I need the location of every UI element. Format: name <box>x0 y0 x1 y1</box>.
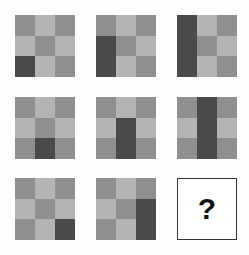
tile-cell <box>116 118 136 139</box>
tile-cell <box>197 15 217 36</box>
tile-cell <box>35 15 55 36</box>
tile-cell <box>15 15 35 36</box>
tile-cell <box>96 97 116 118</box>
tile-cell <box>197 36 217 57</box>
tile-cell <box>35 36 55 57</box>
tile-cell <box>96 138 116 159</box>
tile-cell <box>55 118 75 139</box>
tile-cell <box>15 219 35 240</box>
tile-cell <box>116 15 136 36</box>
tile-cell <box>35 118 55 139</box>
tile-cell <box>177 56 197 77</box>
tile-cell <box>116 199 136 220</box>
tile-cell <box>55 56 75 77</box>
tile-cell <box>197 56 217 77</box>
tile-cell <box>55 36 75 57</box>
tile-cell <box>55 219 75 240</box>
tile-cell <box>136 97 156 118</box>
tile-cell <box>96 36 116 57</box>
tile-cell <box>15 56 35 77</box>
tile-cell <box>136 178 156 199</box>
tile-cell <box>96 56 116 77</box>
tile-cell <box>15 36 35 57</box>
tile-cell <box>116 97 136 118</box>
tile-cell <box>35 199 55 220</box>
tile-cell <box>116 178 136 199</box>
tile-cell <box>96 219 116 240</box>
tile-cell <box>197 97 217 118</box>
tile-cell <box>96 15 116 36</box>
tile-cell <box>136 36 156 57</box>
tile-cell <box>35 178 55 199</box>
tile-cell <box>136 138 156 159</box>
tile-cell <box>217 15 237 36</box>
tile-cell <box>136 118 156 139</box>
tile-cell <box>197 138 217 159</box>
tile-cell <box>177 15 197 36</box>
tile-cell <box>116 36 136 57</box>
tile-cell <box>177 36 197 57</box>
tile-cell <box>96 178 116 199</box>
tile-cell <box>15 118 35 139</box>
tile-cell <box>177 97 197 118</box>
puzzle-tile <box>96 15 156 77</box>
puzzle-tile <box>96 178 156 240</box>
tile-cell <box>136 219 156 240</box>
tile-cell <box>15 138 35 159</box>
tile-cell <box>55 178 75 199</box>
tile-cell <box>96 118 116 139</box>
tile-cell <box>136 56 156 77</box>
tile-cell <box>217 56 237 77</box>
tile-cell <box>116 56 136 77</box>
tile-cell <box>177 138 197 159</box>
puzzle-tile <box>177 15 237 77</box>
tile-cell <box>136 15 156 36</box>
tile-cell <box>136 199 156 220</box>
puzzle-tile <box>15 178 75 240</box>
tile-cell <box>35 138 55 159</box>
puzzle-tile <box>15 97 75 159</box>
tile-cell <box>35 97 55 118</box>
tile-cell <box>35 56 55 77</box>
tile-cell <box>15 199 35 220</box>
puzzle-tile <box>15 15 75 77</box>
tile-cell <box>217 36 237 57</box>
tile-cell <box>55 138 75 159</box>
answer-box[interactable]: ? <box>177 178 237 240</box>
tile-cell <box>15 97 35 118</box>
tile-cell <box>177 118 197 139</box>
tile-cell <box>217 118 237 139</box>
tile-cell <box>55 199 75 220</box>
tile-cell <box>197 118 217 139</box>
tile-cell <box>55 15 75 36</box>
tile-cell <box>217 138 237 159</box>
tile-cell <box>35 219 55 240</box>
tile-cell <box>96 199 116 220</box>
tile-cell <box>116 138 136 159</box>
tile-cell <box>217 97 237 118</box>
tile-cell <box>116 219 136 240</box>
puzzle-tile <box>177 97 237 159</box>
tile-cell <box>15 178 35 199</box>
tile-cell <box>55 97 75 118</box>
puzzle-tile <box>96 97 156 159</box>
question-mark: ? <box>198 192 216 226</box>
